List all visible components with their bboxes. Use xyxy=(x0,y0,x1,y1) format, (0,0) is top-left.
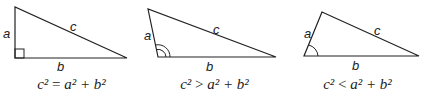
equation-rhs: a² + b² xyxy=(350,76,392,92)
equation-right: c² = a² + b² xyxy=(0,76,143,93)
equation-rhs: a² + b² xyxy=(207,76,249,92)
side-a-label: a xyxy=(304,26,311,41)
acute-triangle: a c b xyxy=(304,12,419,73)
right-triangle: a c b xyxy=(3,7,127,74)
right-angle-marker xyxy=(15,49,24,58)
equation-obtuse: c² > a² + b² xyxy=(143,76,286,93)
equation-operator: > xyxy=(195,76,203,92)
side-b-label: b xyxy=(352,58,359,73)
equation-lhs: c² xyxy=(323,76,334,92)
side-b-label: b xyxy=(57,59,64,74)
equation-lhs: c² xyxy=(180,76,191,92)
equation-operator: = xyxy=(52,76,60,92)
side-a-label: a xyxy=(3,26,10,41)
obtuse-triangle: a c b xyxy=(144,9,276,74)
side-c-label: c xyxy=(374,23,381,38)
equation-operator: < xyxy=(338,76,346,92)
equation-lhs: c² xyxy=(37,76,48,92)
side-c-label: c xyxy=(70,19,77,34)
side-b-label: b xyxy=(206,59,213,74)
side-a-label: a xyxy=(144,28,151,43)
equation-acute: c² < a² + b² xyxy=(286,76,429,93)
acute-angle-arc xyxy=(309,45,319,56)
side-c-label: c xyxy=(213,22,220,37)
equation-rhs: a² + b² xyxy=(64,76,106,92)
